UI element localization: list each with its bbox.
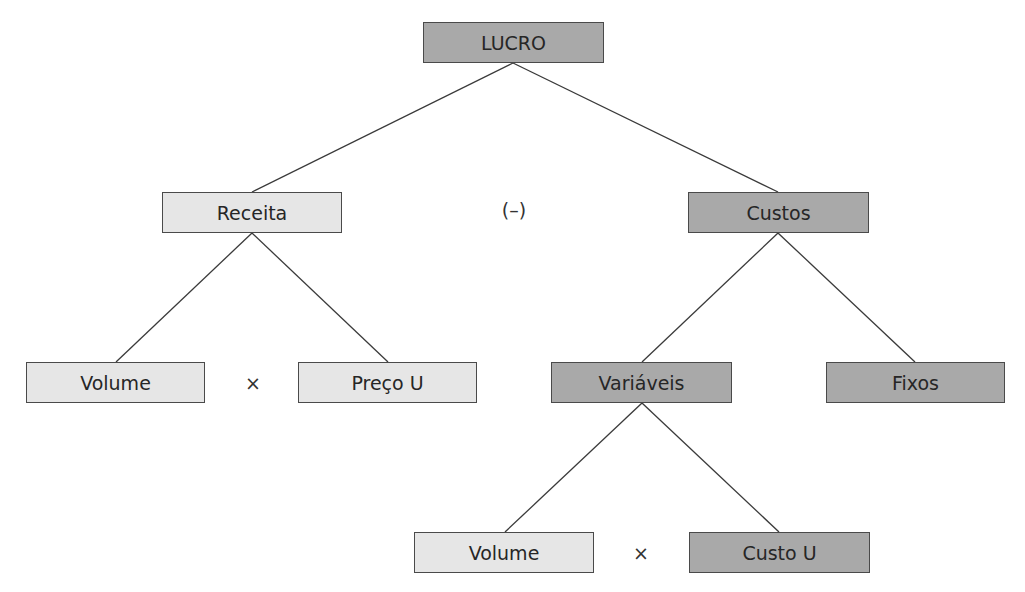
node-volume-custos: Volume bbox=[414, 532, 594, 573]
node-variaveis: Variáveis bbox=[551, 362, 732, 403]
minus-operator: (–) bbox=[502, 199, 526, 221]
edge-lucro-custos bbox=[513, 63, 778, 192]
node-receita: Receita bbox=[162, 192, 342, 233]
edge-receita-volume bbox=[116, 233, 252, 362]
node-custo-unitario: Custo U bbox=[689, 532, 870, 573]
tree-edges bbox=[0, 0, 1025, 592]
node-custos: Custos bbox=[688, 192, 869, 233]
edge-variaveis-volume bbox=[505, 403, 642, 532]
times-operator-receita: × bbox=[245, 372, 261, 394]
edge-lucro-receita bbox=[252, 63, 513, 192]
node-lucro: LUCRO bbox=[423, 22, 604, 63]
edge-variaveis-custou bbox=[642, 403, 779, 532]
node-fixos: Fixos bbox=[826, 362, 1005, 403]
edge-receita-preco bbox=[252, 233, 388, 362]
edge-custos-variaveis bbox=[642, 233, 778, 362]
node-volume-receita: Volume bbox=[26, 362, 205, 403]
edge-custos-fixos bbox=[778, 233, 915, 362]
times-operator-variaveis: × bbox=[633, 542, 649, 564]
node-preco-unitario: Preço U bbox=[298, 362, 477, 403]
